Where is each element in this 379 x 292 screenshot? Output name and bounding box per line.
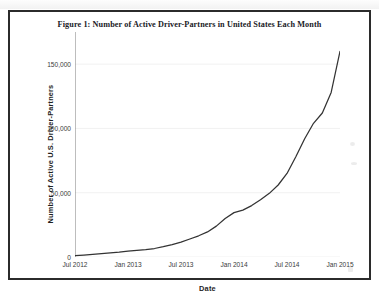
y-tick-label: 50,000 (51, 189, 71, 196)
scan-speck-icon (351, 162, 357, 165)
line-chart (75, 32, 340, 257)
gridlines (75, 64, 340, 257)
y-tick-label: 100,000 (47, 125, 71, 132)
y-axis-title: Number of Active U.S. Driver-Partners (46, 85, 55, 224)
x-tick-label: Jul 2012 (63, 261, 88, 268)
y-tick-label: 150,000 (47, 61, 71, 68)
x-tick-label: Jan 2013 (114, 261, 141, 268)
figure-frame: Figure 1: Number of Active Driver-Partne… (8, 10, 371, 280)
x-tick-label: Jul 2013 (169, 261, 194, 268)
data-line-active-driver-partners (75, 51, 340, 255)
x-tick-label: Jul 2014 (275, 261, 300, 268)
plot-area: Number of Active U.S. Driver-Partners Da… (75, 32, 340, 257)
scan-speck-icon (348, 267, 353, 272)
x-axis-title: Date (75, 284, 340, 292)
scan-speck-icon (350, 142, 355, 146)
x-tick-label: Jan 2014 (220, 261, 247, 268)
figure-title: Figure 1: Number of Active Driver-Partne… (10, 20, 369, 29)
scan-artifact-top (0, 0, 379, 9)
y-tick-label: 0 (67, 254, 71, 261)
